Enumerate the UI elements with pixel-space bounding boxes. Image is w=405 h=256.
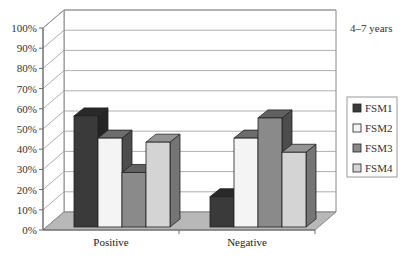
legend-item: FSM2 [353, 122, 393, 134]
legend-label: FSM4 [365, 162, 393, 174]
bar-front [258, 118, 282, 227]
legend-label: FSM1 [365, 102, 393, 114]
bar-side [306, 144, 316, 227]
legend-swatch [353, 144, 361, 152]
legend-label: FSM2 [365, 122, 393, 134]
y-tick-label: 70% [17, 83, 37, 95]
chart: 0%10%20%30%40%50%60%70%80%90%100% Positi… [0, 0, 405, 256]
legend-item: FSM4 [353, 162, 393, 174]
bar-front [74, 116, 98, 227]
y-tick-label: 90% [17, 42, 37, 54]
y-tick-label: 20% [17, 184, 37, 196]
bar-fsm4-positive [146, 134, 180, 227]
bar-front [210, 197, 234, 227]
legend-swatch [353, 124, 361, 132]
bar-front [122, 172, 146, 227]
y-tick-label: 80% [17, 62, 37, 74]
legend-swatch [353, 164, 361, 172]
bar-front [234, 138, 258, 227]
legend-label: FSM3 [365, 142, 393, 154]
bar-front [146, 142, 170, 227]
x-tick-label: Positive [93, 236, 129, 248]
bar-side [170, 134, 180, 227]
legend-item: FSM3 [353, 142, 393, 154]
y-tick-label: 100% [11, 22, 37, 34]
bar-front [282, 152, 306, 227]
age-annotation: 4–7 years [350, 22, 392, 34]
y-tick-label: 40% [17, 143, 37, 155]
y-tick-label: 0% [22, 224, 37, 236]
y-tick-label: 60% [17, 103, 37, 115]
legend-swatch [353, 104, 361, 112]
bar-front [98, 138, 122, 227]
y-tick-label: 50% [17, 123, 37, 135]
y-axis: 0%10%20%30%40%50%60%70%80%90%100% [11, 22, 43, 236]
y-tick-label: 30% [17, 163, 37, 175]
bar-fsm4-negative [282, 144, 316, 227]
x-tick-label: Negative [227, 236, 267, 248]
y-tick-label: 10% [17, 204, 37, 216]
x-axis: PositiveNegative [43, 230, 315, 248]
legend-item: FSM1 [353, 102, 393, 114]
legend: FSM1FSM2FSM3FSM4 [347, 97, 397, 177]
